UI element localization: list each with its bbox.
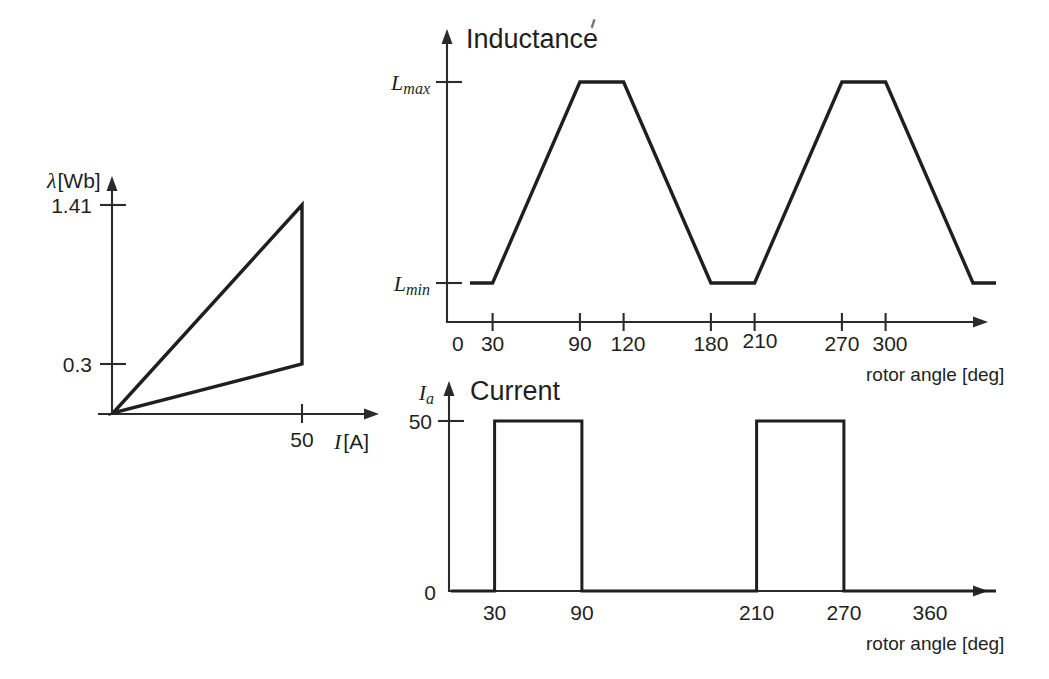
flux-x-tick-label-50: 50 xyxy=(290,428,313,451)
flux-x-axis-arrow-icon xyxy=(364,409,379,420)
inductance-x-tick-label-180: 180 xyxy=(693,332,728,355)
inductance-x-tick-label-210: 210 xyxy=(742,329,777,352)
panel-phase-current: Current Ia 50 0 30 90 210 270 360 rotor … xyxy=(409,376,1005,654)
inductance-x-tick-label-300: 300 xyxy=(872,332,907,355)
current-x-axis-label: rotor angle [deg] xyxy=(866,633,1004,654)
inductance-x-tick-label-90: 90 xyxy=(568,332,591,355)
inductance-y-axis-arrow-icon xyxy=(442,29,453,44)
inductance-x-tick-label-0: 0 xyxy=(452,332,464,355)
inductance-waveform-curve xyxy=(470,82,996,283)
flux-x-axis-label: I[A] xyxy=(333,429,369,454)
current-x-tick-label-270: 270 xyxy=(826,601,861,624)
figure-root: λ[Wb] 1.41 0.3 50 I[A] xyxy=(0,0,1049,679)
flux-y-axis-label: λ[Wb] xyxy=(46,168,101,193)
flux-y-tick-label-1p41: 1.41 xyxy=(51,194,92,217)
current-x-tick-label-30: 30 xyxy=(483,601,506,624)
current-title: Current xyxy=(470,376,561,406)
inductance-x-axis-arrow-icon xyxy=(973,317,988,328)
current-y-tick-label-50: 50 xyxy=(409,410,432,433)
inductance-x-tick-label-30: 30 xyxy=(481,332,504,355)
flux-y-axis-arrow-icon xyxy=(107,176,118,191)
current-y-tick-label-0: 0 xyxy=(424,581,436,604)
current-y-axis-label: Ia xyxy=(418,380,434,407)
current-x-tick-label-90: 90 xyxy=(570,601,593,624)
current-y-axis-arrow-icon xyxy=(444,381,455,396)
panel-flux-linkage-loop: λ[Wb] 1.41 0.3 50 I[A] xyxy=(46,168,379,454)
flux-linkage-loop-curve xyxy=(113,205,302,413)
inductance-y-tick-label-lmin: Lmin xyxy=(393,271,430,298)
inductance-title: Inductance xyxy=(466,24,598,54)
panel-inductance-profile: Inductance Lmax Lmin 0 30 90 120 180 210… xyxy=(390,19,1004,385)
flux-y-tick-label-0p3: 0.3 xyxy=(63,353,92,376)
inductance-y-tick-label-lmax: Lmax xyxy=(390,70,430,97)
inductance-x-tick-label-120: 120 xyxy=(610,332,645,355)
current-waveform-curve xyxy=(451,421,996,591)
inductance-x-axis-label: rotor angle [deg] xyxy=(866,364,1004,385)
inductance-x-tick-label-270: 270 xyxy=(824,332,859,355)
current-x-tick-label-360: 360 xyxy=(912,601,947,624)
figure-svg: λ[Wb] 1.41 0.3 50 I[A] xyxy=(0,0,1049,679)
current-x-tick-label-210: 210 xyxy=(739,601,774,624)
